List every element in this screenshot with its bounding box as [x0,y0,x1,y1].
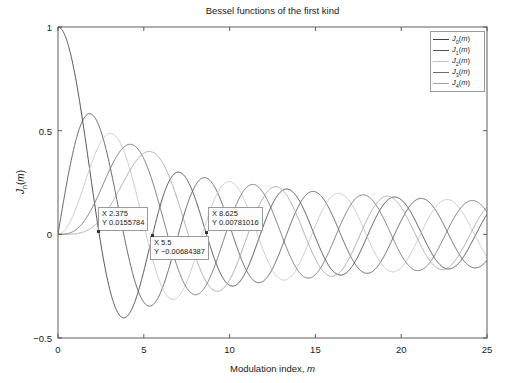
y-axis-label-sub: n [20,185,29,189]
data-tip-3-x: X 8.625 [212,209,259,218]
data-tip-marker-3 [205,231,208,234]
legend-swatch-j2 [433,61,449,62]
data-tip-1-y: Y 0.0155784 [102,218,144,227]
x-axis-label: Modulation index, m [58,363,487,374]
x-axis-label-italic: m [307,363,315,374]
legend-label-j2: J2(m) [452,57,470,67]
legend-label-j4: J4(m) [452,79,470,89]
legend-item-j2[interactable]: J2(m) [431,56,484,67]
y-axis-label: Jn(m) [15,142,29,222]
legend-swatch-j0 [433,39,449,40]
legend-label-j1: J1(m) [452,46,470,56]
legend-label-j0: J0(m) [452,35,470,45]
legend-item-j0[interactable]: J0(m) [431,34,484,45]
y-tick-label-3: −0.5 [22,333,52,344]
x-axis-label-text: Modulation index, [230,363,307,374]
data-tip-marker-1 [97,230,100,233]
legend-item-j1[interactable]: J1(m) [431,45,484,56]
data-tip-2-y: Y −0.00684387 [154,247,205,256]
figure-canvas: Bessel functions of the first kind Jn(m)… [0,0,511,383]
data-tip-3[interactable]: X 8.625 Y 0.00781016 [208,207,263,231]
y-tick-label-0: 1 [22,22,52,33]
y-axis-label-tail: (m) [15,170,26,185]
legend-swatch-j4 [433,83,449,84]
x-tick-label-4: 20 [396,344,407,355]
data-tip-1-x: X 2.375 [102,209,144,218]
x-tick-label-5: 25 [482,344,493,355]
y-tick-label-1: 0.5 [22,125,52,136]
data-tip-marker-2 [151,234,154,237]
legend-item-j3[interactable]: J3(m) [431,67,484,78]
legend-swatch-j1 [433,50,449,51]
legend: J0(m) J1(m) J2(m) J3(m) J4(m) [430,31,485,92]
x-tick-label-3: 15 [310,344,321,355]
legend-swatch-j3 [433,72,449,73]
x-tick-label-0: 0 [55,344,60,355]
y-tick-label-2: 0 [22,229,52,240]
data-tip-2-x: X 5.5 [154,238,205,247]
legend-item-j4[interactable]: J4(m) [431,78,484,89]
data-tip-1[interactable]: X 2.375 Y 0.0155784 [98,207,148,231]
y-axis-label-base: J [15,189,26,194]
legend-label-j3: J3(m) [452,68,470,78]
series-line-j0m [58,27,487,318]
x-tick-label-2: 10 [224,344,235,355]
data-tip-3-y: Y 0.00781016 [212,218,259,227]
data-tip-2[interactable]: X 5.5 Y −0.00684387 [150,236,209,260]
x-tick-label-1: 5 [141,344,146,355]
